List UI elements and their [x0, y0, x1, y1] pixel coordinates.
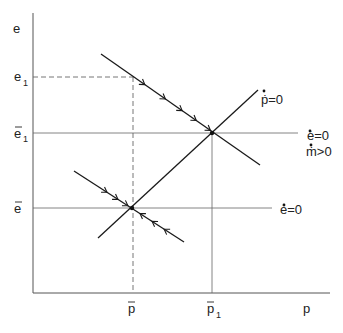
pdot-zero-line [98, 90, 258, 238]
svg-text:e: e [14, 126, 21, 141]
svg-text:1: 1 [23, 78, 28, 88]
svg-text:p: p [128, 301, 135, 316]
y-tick-ebar: e [14, 201, 22, 216]
y-tick-ebar1: e 1 [14, 126, 28, 144]
phase-diagram: e p e 1 e 1 e p p 1 ṗ [0, 0, 343, 333]
svg-text:ṗ=0: ṗ=0 [261, 92, 283, 107]
label-edot-zero-old: ė=0 [280, 202, 302, 217]
x-tick-pbar1: p 1 [207, 301, 221, 320]
x-axis-label: p [303, 301, 310, 316]
initial-saddle-path [74, 171, 184, 242]
svg-text:ṁ>0: ṁ>0 [306, 144, 332, 159]
svg-text:ė=0: ė=0 [307, 128, 329, 143]
y-axis-label: e [13, 21, 20, 36]
svg-text:1: 1 [23, 134, 28, 144]
svg-text:p: p [207, 301, 214, 316]
x-tick-pbar: p [128, 301, 135, 316]
svg-text:e: e [14, 201, 21, 216]
label-mdot-positive: ṁ>0 [306, 144, 332, 159]
y-tick-e1: e 1 [14, 69, 28, 88]
equilibrium-initial [130, 206, 134, 210]
svg-text:e: e [14, 69, 21, 84]
label-edot-zero-new: ė=0 [307, 128, 329, 143]
svg-text:ė=0: ė=0 [280, 202, 302, 217]
label-pdot-zero: ṗ=0 [261, 90, 283, 107]
svg-text:1: 1 [216, 310, 221, 320]
equilibrium-new [210, 131, 214, 135]
